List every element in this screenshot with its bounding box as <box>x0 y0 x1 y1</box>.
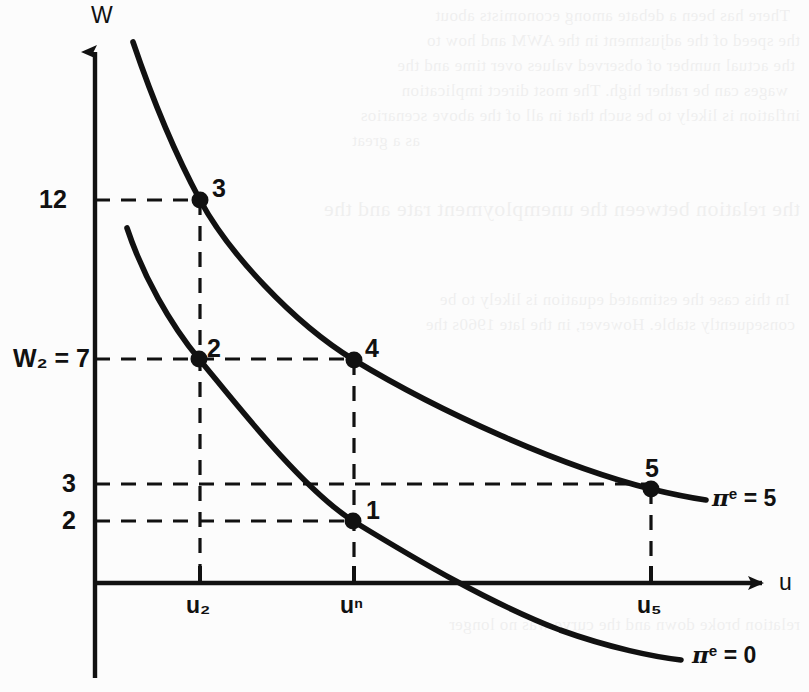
point-label-3: 3 <box>212 176 226 201</box>
pi-symbol-upper: π <box>712 484 729 511</box>
figure-page: There has been a debate among economists… <box>0 0 809 692</box>
pi-value-lower: 0 <box>744 642 757 668</box>
x-axis-label: u <box>779 571 792 594</box>
data-point-3 <box>192 192 209 209</box>
pi-value-upper: 5 <box>764 485 777 511</box>
data-point-5 <box>643 481 660 498</box>
x-axis-ticks <box>200 566 651 583</box>
phillips-curve-figure <box>0 0 809 692</box>
pi-exponent-lower: e <box>709 642 717 659</box>
curve-label-pi-e-0: πe = 0 <box>692 643 756 667</box>
x-tick-label-u5: u₅ <box>637 594 662 617</box>
y-tick-label-w2: W₂ = 7 <box>0 346 90 371</box>
y-axis-label: W <box>91 4 113 27</box>
pi-symbol-lower: π <box>692 641 709 668</box>
x-tick-label-un: uⁿ <box>340 594 363 617</box>
point-label-5: 5 <box>645 456 659 481</box>
x-tick-label-u2: u₂ <box>186 594 210 617</box>
y-tick-label-2: 2 <box>62 508 76 533</box>
y-tick-label-12: 12 <box>39 187 67 212</box>
data-point-4 <box>346 352 363 369</box>
point-label-1: 1 <box>366 498 380 523</box>
pi-exponent-upper: e <box>729 485 737 502</box>
point-label-4: 4 <box>365 336 379 361</box>
curve-pi-e-5 <box>133 42 706 500</box>
point-label-2: 2 <box>207 336 221 361</box>
y-tick-label-3: 3 <box>62 471 76 496</box>
curve-label-pi-e-5: πe = 5 <box>712 486 776 510</box>
data-point-2 <box>191 351 208 368</box>
data-point-1 <box>345 513 362 530</box>
guide-lines <box>95 200 651 583</box>
